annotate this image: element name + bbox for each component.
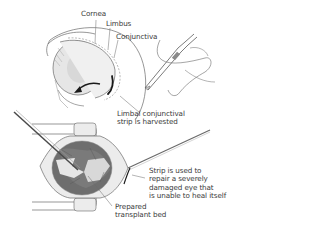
label-harvest-line: strip is harvested xyxy=(117,118,185,126)
scalpel-icon xyxy=(145,34,215,96)
label-limbus: Limbus xyxy=(106,20,131,28)
label-repair-line: is unable to heal itself xyxy=(149,192,226,200)
label-bed-line: transplant bed xyxy=(115,211,166,219)
label-cornea: Cornea xyxy=(81,10,106,18)
label-transplant-bed: Prepared transplant bed xyxy=(115,203,166,220)
label-harvest: Limbal conjunctival strip is harvested xyxy=(117,110,185,127)
label-conjunctiva: Conjunctiva xyxy=(116,33,157,41)
label-repair: Strip is used to repair a severely damag… xyxy=(149,167,226,201)
